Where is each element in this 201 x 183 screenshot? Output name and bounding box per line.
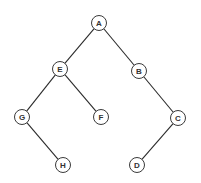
- edge-c-d: [142, 124, 173, 160]
- node-label: G: [19, 113, 25, 122]
- node-b: B: [132, 64, 147, 79]
- node-label: F: [99, 113, 104, 122]
- node-label: C: [175, 114, 181, 123]
- node-label: D: [134, 161, 140, 170]
- node-d: D: [130, 158, 145, 173]
- binary-tree-diagram: AEBGFCHD: [0, 0, 201, 183]
- edge-g-h: [27, 123, 58, 160]
- node-label: A: [96, 19, 102, 28]
- node-g: G: [15, 110, 30, 125]
- edge-e-g: [27, 75, 56, 111]
- edge-b-c: [144, 77, 173, 112]
- node-label: H: [60, 161, 66, 170]
- node-label: B: [136, 67, 142, 76]
- edge-a-e: [65, 29, 94, 64]
- node-h: H: [56, 158, 71, 173]
- edge-e-f: [65, 75, 96, 112]
- node-c: C: [171, 111, 186, 126]
- tree-edges: [27, 29, 174, 160]
- edge-a-b: [104, 29, 134, 65]
- node-e: E: [53, 62, 68, 77]
- node-a: A: [92, 16, 107, 31]
- node-f: F: [94, 110, 109, 125]
- node-label: E: [57, 65, 63, 74]
